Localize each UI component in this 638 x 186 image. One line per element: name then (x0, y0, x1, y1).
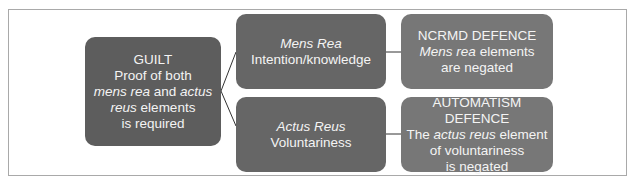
italic-term: actus (180, 84, 212, 99)
mens-rea-node: Mens ReaIntention/knowledge (236, 14, 386, 89)
italic-term: reus (111, 100, 137, 115)
node-text-line: reus elements (111, 100, 196, 116)
text-segment: elements (137, 100, 196, 115)
node-text-line: The actus reus element (406, 127, 547, 143)
ncrmd-defence-node: NCRMD DEFENCEMens rea elementsare negate… (401, 14, 553, 89)
text-segment: AUTOMATISM (433, 95, 522, 110)
text-segment: Intention/knowledge (251, 52, 371, 67)
text-segment: GUILT (134, 52, 173, 67)
node-text-line: AUTOMATISM (433, 95, 522, 111)
text-segment: DEFENCE (445, 111, 510, 126)
text-segment: Voluntariness (270, 135, 351, 150)
text-segment: Proof of both (114, 68, 191, 83)
node-text-line: of voluntariness (430, 143, 525, 159)
actus-reus-node: Actus ReusVoluntariness (236, 97, 386, 172)
italic-term: actus reus (433, 127, 495, 142)
node-text-line: Voluntariness (270, 135, 351, 151)
node-text-line: NCRMD DEFENCE (418, 28, 537, 44)
text-segment: NCRMD DEFENCE (418, 28, 537, 43)
node-text-line: Mens rea elements (420, 44, 535, 60)
text-segment: is required (121, 116, 184, 131)
italic-term: Actus Reus (276, 119, 345, 134)
text-segment: are negated (441, 60, 513, 75)
automatism-defence-node: AUTOMATISMDEFENCEThe actus reus elemento… (401, 97, 553, 172)
text-segment: of voluntariness (430, 143, 525, 158)
guilt-node: GUILTProof of bothmens rea and actusreus… (85, 37, 221, 146)
text-segment: and (150, 84, 180, 99)
text-segment: element (496, 127, 548, 142)
node-text-line: is negated (446, 159, 508, 175)
node-text-line: DEFENCE (445, 111, 510, 127)
node-text-line: Actus Reus (276, 119, 345, 135)
node-text-line: Proof of both (114, 68, 191, 84)
node-text-line: GUILT (134, 52, 173, 68)
italic-term: Mens Rea (280, 36, 342, 51)
node-text-line: Intention/knowledge (251, 52, 371, 68)
node-text-line: is required (121, 116, 184, 132)
node-text-line: Mens Rea (280, 36, 342, 52)
text-segment: elements (476, 44, 535, 59)
node-text-line: are negated (441, 60, 513, 76)
text-segment: is negated (446, 159, 508, 174)
node-text-line: mens rea and actus (94, 84, 213, 100)
text-segment: The (406, 127, 433, 142)
italic-term: Mens rea (420, 44, 476, 59)
italic-term: mens rea (94, 84, 150, 99)
